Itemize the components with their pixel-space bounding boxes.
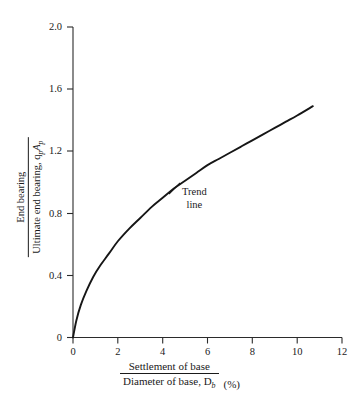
- trend-line-annotation-line-2: line: [182, 198, 207, 211]
- x-tick-marks: [73, 338, 342, 344]
- y-tick-label-0: 0: [40, 332, 62, 343]
- trend-line-annotation: Trend line: [182, 185, 207, 211]
- x-axis-label-units: (%): [224, 378, 241, 391]
- y-tick-label-2-0: 2.0: [40, 22, 62, 33]
- y-axis-label-denominator-area-symbol: A: [31, 144, 42, 150]
- x-axis-label-denominator-subscript: b: [212, 382, 216, 391]
- y-axis-label-fraction-bar: [28, 138, 29, 257]
- y-axis-label: End bearing Ultimate end bearing, qpAp: [15, 87, 45, 307]
- y-axis-label-denominator-text: Ultimate end bearing, q: [31, 155, 42, 254]
- y-axis-label-numerator: End bearing: [15, 169, 27, 226]
- plot-area: [0, 0, 360, 404]
- x-axis-label-fraction-bar: [120, 373, 219, 374]
- x-tick-label-8: 8: [250, 347, 255, 358]
- x-axis-label: Settlement of base Diameter of base, Db …: [120, 360, 240, 391]
- x-axis-label-numerator: Settlement of base: [126, 360, 213, 372]
- x-tick-label-0: 0: [70, 347, 75, 358]
- trend-line-leader: [169, 183, 180, 194]
- end-bearing-settlement-chart: 2.0 1.6 1.2 0.8 0.4 0 0 2 4 6 8 10 12 Se…: [0, 0, 360, 404]
- y-axis-label-denominator-subscript-2: p: [36, 141, 45, 145]
- x-tick-label-6: 6: [205, 347, 210, 358]
- y-axis-label-denominator: Ultimate end bearing, qpAp: [31, 138, 46, 257]
- x-tick-label-4: 4: [160, 347, 165, 358]
- y-axis-label-fraction: End bearing Ultimate end bearing, qpAp: [15, 138, 45, 257]
- trend-line-curve: [73, 106, 313, 337]
- x-axis-label-denominator: Diameter of base, Db: [120, 375, 219, 391]
- y-tick-marks: [67, 27, 73, 338]
- trend-line-annotation-line-1: Trend: [182, 185, 207, 198]
- x-tick-label-12: 12: [337, 347, 348, 358]
- x-tick-label-2: 2: [115, 347, 120, 358]
- x-tick-label-10: 10: [292, 347, 303, 358]
- y-axis-label-denominator-subscript-1: p: [36, 151, 45, 155]
- x-axis-label-fraction: Settlement of base Diameter of base, Db: [120, 360, 219, 391]
- x-axis-label-denominator-text: Diameter of base, D: [123, 375, 212, 387]
